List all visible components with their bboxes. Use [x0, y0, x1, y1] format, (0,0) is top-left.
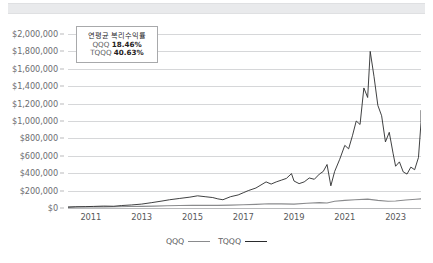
cagr-growth-line-chart: $0$200,000$400,000$600,000$800,000$1,000…: [0, 16, 433, 263]
y-axis-tick-label: $1,600,000: [12, 64, 58, 74]
y-axis-tick-mark: [60, 51, 64, 52]
cagr-row-tqqq-ticker: TQQQ: [90, 48, 111, 57]
x-axis-tick-label: 2013: [131, 212, 152, 222]
x-axis-tick-label: 2011: [80, 212, 101, 222]
x-axis-tick-label: 2017: [233, 212, 254, 222]
legend-label-qqq: QQQ: [166, 237, 184, 246]
y-axis-tick-mark: [60, 208, 64, 209]
series-line-tqqq: [68, 51, 421, 207]
y-axis-tick-label: $600,000: [20, 151, 58, 161]
x-axis-tick-label: 2019: [284, 212, 305, 222]
y-axis-tick-mark: [60, 86, 64, 87]
y-axis-tick-label: $1,800,000: [12, 46, 58, 56]
y-axis-tick-mark: [60, 34, 64, 35]
chart-legend: QQQ TQQQ: [0, 234, 433, 248]
y-axis-tick-mark: [60, 103, 64, 104]
legend-item-qqq: QQQ: [166, 237, 210, 246]
y-axis-tick-mark: [60, 173, 64, 174]
x-axis-tick-label: 2021: [334, 212, 355, 222]
y-axis-tick-mark: [60, 68, 64, 69]
cagr-row-tqqq: TQQQ 40.63%: [90, 49, 144, 57]
y-axis-tick-label: $1,000,000: [12, 116, 58, 126]
x-axis-tick-label: 2015: [182, 212, 203, 222]
cagr-annotation-box: 연평균 복리수익률 QQQ 18.46% TQQQ 40.63%: [76, 26, 158, 63]
y-axis-tick-label: $400,000: [20, 168, 58, 178]
cagr-row-tqqq-value: 40.63%: [114, 48, 144, 57]
cagr-row-qqq: QQQ 18.46%: [92, 41, 141, 49]
x-axis-tick-label: 2023: [385, 212, 406, 222]
gridline: [68, 208, 421, 209]
legend-label-tqqq: TQQQ: [218, 237, 241, 246]
y-axis-tick-mark: [60, 190, 64, 191]
y-axis-tick-label: $200,000: [20, 186, 58, 196]
cagr-annotation-title: 연평균 복리수익률: [88, 32, 146, 40]
y-axis-tick-label: $0: [48, 203, 58, 213]
legend-item-tqqq: TQQQ: [218, 237, 267, 246]
y-axis-tick-mark: [60, 155, 64, 156]
y-axis-tick-label: $1,400,000: [12, 81, 58, 91]
y-axis-tick-label: $2,000,000: [12, 29, 58, 39]
legend-swatch-tqqq-icon: [245, 241, 267, 242]
legend-swatch-qqq-icon: [188, 241, 210, 242]
x-axis: 2011201320152017201920212023: [68, 212, 421, 228]
y-axis-tick-label: $1,200,000: [12, 99, 58, 109]
y-axis-tick-mark: [60, 121, 64, 122]
toolbar-band: [8, 3, 425, 14]
y-axis-tick-label: $800,000: [20, 133, 58, 143]
y-axis-tick-mark: [60, 138, 64, 139]
y-axis: $0$200,000$400,000$600,000$800,000$1,000…: [0, 34, 64, 208]
